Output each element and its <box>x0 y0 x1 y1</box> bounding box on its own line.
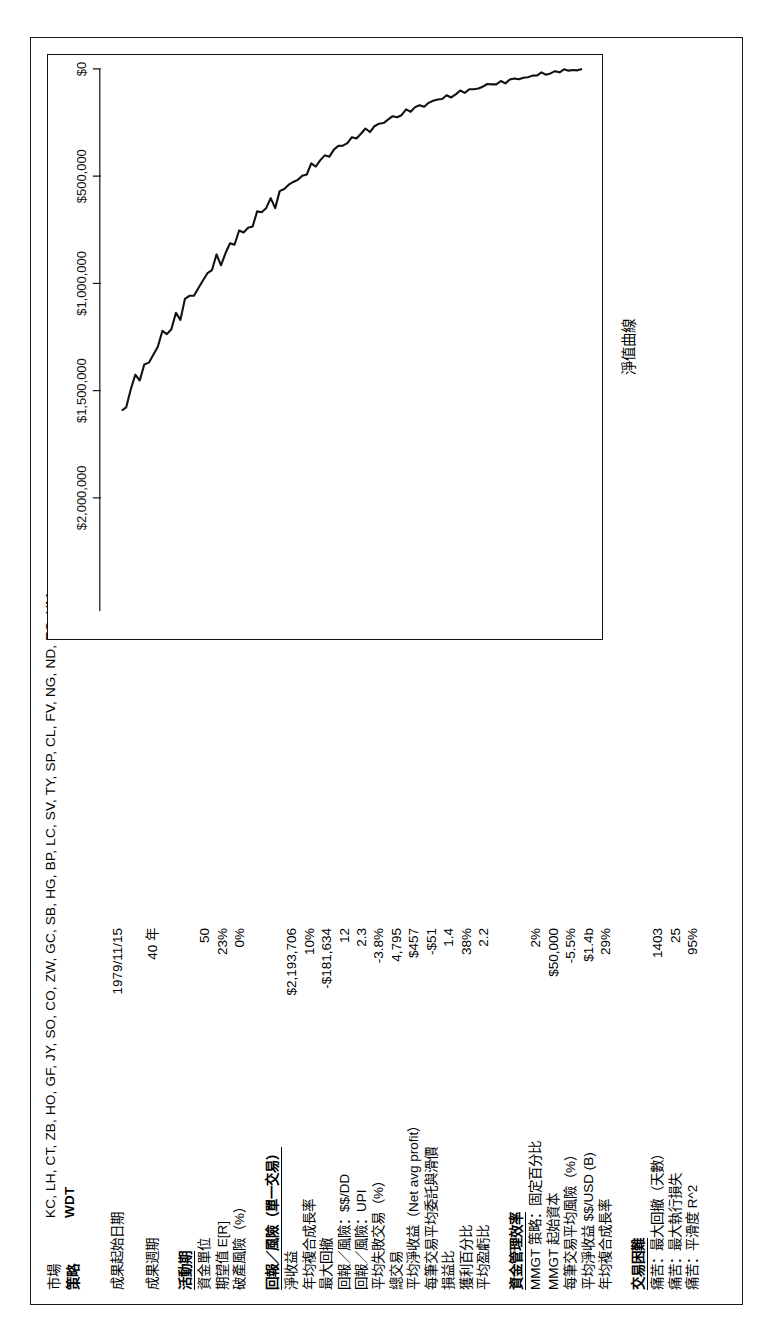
stat-group-heading: 資金管理效率 <box>505 1212 526 1290</box>
stat-label: 平均盈虧比 <box>475 1040 492 1290</box>
stat-label: 總交易 <box>388 1040 405 1290</box>
stat-label: 痛苦：平滑度 R^2 <box>684 1040 701 1290</box>
stat-group: 活動期資金單位50期望值 E[R]23%破產風險（%）0% <box>174 650 248 1290</box>
chart-y-tick-label: $0 <box>74 62 89 76</box>
stat-label: 痛苦：最大回撤（天數） <box>649 1040 666 1290</box>
equity-curve-chart: $0$500,000$1,000,000$1,500,000$2,000,000 <box>47 54 603 640</box>
stat-label <box>126 1040 143 1290</box>
stat-label: 期望值 E[R] <box>214 1040 231 1290</box>
stat-label: 淨收益 <box>283 1040 300 1290</box>
stat-value: 25 <box>667 928 684 1040</box>
stat-group: 資金管理效率MMGT 策略：固定百分比2%MMGT 起始資本$50,000每筆交… <box>505 650 614 1290</box>
stat-value: -3.8% <box>370 928 387 1040</box>
stat-label: MMGT 策略：固定百分比 <box>527 1040 544 1290</box>
stat-value: 95% <box>684 928 701 1040</box>
stat-row: 總交易4,795 <box>388 650 405 1290</box>
stat-value: 4,795 <box>388 928 405 1040</box>
stat-row: 平均盈虧比2.2 <box>475 650 492 1290</box>
stat-row: 每筆交易平均風險（%）-5.5% <box>562 650 579 1290</box>
stat-label: 回報／風險：UPI <box>353 1040 370 1290</box>
stat-label: 破產風險（%） <box>231 1040 248 1290</box>
header-label-1: 策略 <box>62 1264 82 1290</box>
header-value-1: WDT <box>62 1187 77 1218</box>
stat-value: 12 <box>336 928 353 1040</box>
stat-value: $1.4b <box>580 928 597 1040</box>
stat-row: 回報／風險：$$/DD12 <box>336 650 353 1290</box>
report-sheet: 市場KC, LH, CT, ZB, HO, GF, JY, SO, CO, ZW… <box>30 37 743 1305</box>
chart-y-tick-label: $1,000,000 <box>74 251 89 316</box>
stat-label: 資金單位 <box>196 1040 213 1290</box>
stat-value: 2.2 <box>475 928 492 1040</box>
stat-value: 50 <box>196 928 213 1040</box>
stat-value: 0% <box>231 928 248 1040</box>
stat-row: 每筆交易平均委託與滑價-$51 <box>423 650 440 1290</box>
equity-curve-line <box>122 69 582 411</box>
stat-row: 平均淨收益（Net avg profit）$457 <box>405 650 422 1290</box>
stat-row: 破產風險（%）0% <box>231 650 248 1290</box>
stat-label: 最大回撤 <box>318 1040 335 1290</box>
stat-row: 痛苦：最大執行損失25 <box>667 650 684 1290</box>
stat-value: $50,000 <box>545 928 562 1040</box>
chart-y-tick-label: $1,500,000 <box>74 358 89 423</box>
stat-value: 1979/11/15 <box>109 928 126 1040</box>
stat-value: $2,193,706 <box>283 928 300 1040</box>
stat-label: 平均淨收益（Net avg profit） <box>405 1040 422 1290</box>
stat-group-heading: 回報／風險（單一交易） <box>261 1147 282 1290</box>
stat-row: 年均複合成長率29% <box>597 650 614 1290</box>
stat-group: 成果起始日期1979/11/15 成果週期40 年 <box>109 650 161 1290</box>
stat-value: -$181,634 <box>318 928 335 1040</box>
stat-value: 23% <box>214 928 231 1040</box>
stat-value: 2.3 <box>353 928 370 1040</box>
stat-row: 最大回撤-$181,634 <box>318 650 335 1290</box>
stat-label: 年均複合成長率 <box>597 1040 614 1290</box>
stat-label: 每筆交易平均委託與滑價 <box>423 1040 440 1290</box>
stat-label: 年均複合成長率 <box>301 1040 318 1290</box>
stat-value: 40 年 <box>144 928 161 1040</box>
stat-row: 損益比1.4 <box>440 650 457 1290</box>
stat-row: 痛苦：最大回撤（天數）1403 <box>649 650 666 1290</box>
stat-label: 成果週期 <box>144 1040 161 1290</box>
stat-value: -$51 <box>423 928 440 1040</box>
header-value-0: KC, LH, CT, ZB, HO, GF, JY, SO, CO, ZW, … <box>43 593 58 1218</box>
stat-label: 成果起始日期 <box>109 1040 126 1290</box>
stat-label: 平均失敗交易（%） <box>370 1040 387 1290</box>
stat-row: 淨收益$2,193,706 <box>283 650 300 1290</box>
stat-row: 平均失敗交易（%）-3.8% <box>370 650 387 1290</box>
statistics-table: 成果起始日期1979/11/15 成果週期40 年活動期資金單位50期望值 E[… <box>109 650 702 1290</box>
stat-row: 痛苦：平滑度 R^295% <box>684 650 701 1290</box>
stat-label: 痛苦：最大執行損失 <box>667 1040 684 1290</box>
stat-value: 1.4 <box>440 928 457 1040</box>
stat-row: MMGT 起始資本$50,000 <box>545 650 562 1290</box>
chart-y-tick-label: $500,000 <box>74 149 89 203</box>
stat-row: 回報／風險：UPI2.3 <box>353 650 370 1290</box>
stat-value: 10% <box>301 928 318 1040</box>
stat-row: 年均複合成長率10% <box>301 650 318 1290</box>
stat-row: 獲利百分比38% <box>458 650 475 1290</box>
stat-row: 資金單位50 <box>196 650 213 1290</box>
header-label-0: 市場 <box>43 1264 63 1290</box>
equity-curve-plot: $0$500,000$1,000,000$1,500,000$2,000,000 <box>48 55 602 639</box>
stat-label: 平均淨收益 $$/USD (B) <box>580 1040 597 1290</box>
stat-label: 損益比 <box>440 1040 457 1290</box>
rotated-report-page: 市場KC, LH, CT, ZB, HO, GF, JY, SO, CO, ZW… <box>0 0 776 1327</box>
stat-label: 回報／風險：$$/DD <box>336 1040 353 1290</box>
stat-value: 2% <box>527 928 544 1040</box>
stat-label: 獲利百分比 <box>458 1040 475 1290</box>
stat-group-heading: 活動期 <box>174 1251 195 1290</box>
stat-value: -5.5% <box>562 928 579 1040</box>
stat-row: 期望值 E[R]23% <box>214 650 231 1290</box>
stat-value: 29% <box>597 928 614 1040</box>
stat-row: 成果週期40 年 <box>144 650 161 1290</box>
stat-row <box>126 650 143 1290</box>
stat-row: 成果起始日期1979/11/15 <box>109 650 126 1290</box>
stat-value: 1403 <box>649 928 666 1040</box>
stat-label: MMGT 起始資本 <box>545 1040 562 1290</box>
stat-group-heading: 交易困難 <box>627 1238 648 1290</box>
stat-group: 回報／風險（單一交易）淨收益$2,193,706年均複合成長率10%最大回撤-$… <box>261 650 492 1290</box>
stat-row: 平均淨收益 $$/USD (B)$1.4b <box>580 650 597 1290</box>
stat-row: MMGT 策略：固定百分比2% <box>527 650 544 1290</box>
stat-group: 交易困難痛苦：最大回撤（天數）1403痛苦：最大執行損失25痛苦：平滑度 R^2… <box>627 650 701 1290</box>
stat-value: 38% <box>458 928 475 1040</box>
chart-y-tick-label: $2,000,000 <box>74 465 89 530</box>
stat-value: $457 <box>405 928 422 1040</box>
